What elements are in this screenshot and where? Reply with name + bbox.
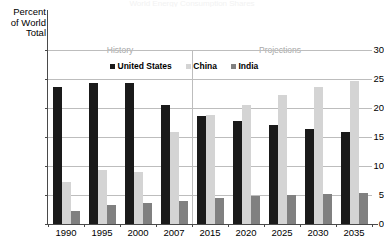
bar-india-2000[interactable] (143, 203, 152, 224)
bar-china-2035[interactable] (350, 81, 359, 224)
bar-group-2007 (161, 105, 188, 224)
bar-india-1990[interactable] (71, 211, 80, 224)
x-tick-mark-2025 (264, 224, 265, 227)
bar-united-states-2000[interactable] (125, 83, 134, 224)
y-axis-title: Percent of World Total (0, 7, 46, 39)
x-tick-mark-2030 (300, 224, 301, 227)
x-tick-label-2035: 2035 (334, 228, 374, 238)
plot-area (48, 50, 372, 224)
bar-group-2030 (305, 87, 332, 224)
x-tick-label-2030: 2030 (298, 228, 338, 238)
bar-group-1995 (89, 83, 116, 224)
x-tick-mark-2020 (228, 224, 229, 227)
x-tick-mark-2007 (156, 224, 157, 227)
bar-india-2007[interactable] (179, 201, 188, 224)
bar-group-2020 (233, 105, 260, 224)
bar-china-2007[interactable] (170, 132, 179, 224)
gridline-25 (48, 79, 372, 80)
x-tick-mark-2035 (336, 224, 337, 227)
x-tick-label-1995: 1995 (82, 228, 122, 238)
gridline-0 (48, 224, 372, 225)
bar-united-states-2030[interactable] (305, 129, 314, 224)
bar-united-states-1990[interactable] (53, 87, 62, 224)
bar-india-2030[interactable] (323, 194, 332, 224)
bar-india-1995[interactable] (107, 205, 116, 224)
x-tick-label-2007: 2007 (154, 228, 194, 238)
x-tick-mark-2015 (192, 224, 193, 227)
x-tick-label-1990: 1990 (46, 228, 86, 238)
bar-india-2035[interactable] (359, 193, 368, 224)
bar-china-1995[interactable] (98, 170, 107, 224)
bar-chart: World Energy Consumption Shares Percent … (0, 0, 384, 248)
bar-united-states-2007[interactable] (161, 105, 170, 224)
gridline-30 (48, 50, 372, 51)
bar-united-states-2025[interactable] (269, 125, 278, 224)
x-tick-label-2000: 2000 (118, 228, 158, 238)
x-tick-label-2020: 2020 (226, 228, 266, 238)
chart-title: World Energy Consumption Shares (0, 0, 384, 7)
bar-group-2015 (197, 115, 224, 224)
bar-china-2030[interactable] (314, 87, 323, 224)
bar-united-states-2035[interactable] (341, 132, 350, 224)
bar-united-states-1995[interactable] (89, 83, 98, 224)
x-tick-mark-end (372, 224, 373, 227)
bar-group-2035 (341, 81, 368, 224)
bar-china-1990[interactable] (62, 182, 71, 224)
bar-group-2025 (269, 95, 296, 224)
bar-china-2000[interactable] (134, 172, 143, 224)
x-tick-mark-1990 (48, 224, 49, 227)
bar-india-2015[interactable] (215, 198, 224, 224)
x-tick-mark-2000 (120, 224, 121, 227)
bar-united-states-2015[interactable] (197, 116, 206, 224)
bar-china-2025[interactable] (278, 95, 287, 224)
bar-india-2020[interactable] (251, 196, 260, 224)
bar-china-2020[interactable] (242, 105, 251, 224)
y-axis-title-line-3: Total (0, 28, 46, 39)
bar-china-2015[interactable] (206, 115, 215, 224)
bar-group-2000 (125, 83, 152, 224)
x-tick-label-2015: 2015 (190, 228, 230, 238)
x-tick-label-2025: 2025 (262, 228, 302, 238)
bar-india-2025[interactable] (287, 195, 296, 224)
x-tick-mark-1995 (84, 224, 85, 227)
bar-united-states-2020[interactable] (233, 121, 242, 224)
y-axis-title-line-1: Percent (0, 7, 46, 18)
bar-group-1990 (53, 87, 80, 224)
